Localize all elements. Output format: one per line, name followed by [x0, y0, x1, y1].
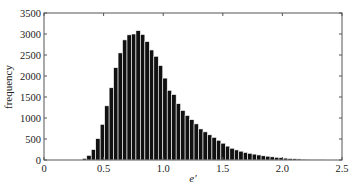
histogram-bar — [252, 154, 256, 160]
histogram-bar — [91, 150, 95, 161]
histogram-bar — [131, 34, 135, 160]
histogram-bar — [167, 90, 171, 160]
y-tick-label: 0 — [36, 155, 41, 166]
histogram-bar — [230, 148, 234, 160]
histogram-bar — [123, 40, 127, 160]
histogram-bar — [261, 156, 265, 160]
histogram-bar — [185, 115, 189, 160]
histogram-bar — [154, 56, 158, 160]
y-tick-label: 500 — [25, 134, 41, 145]
histogram-bar — [181, 110, 185, 160]
histogram-bar — [114, 68, 118, 160]
y-axis-label: frequency — [2, 65, 14, 109]
x-tick-label: 1.0 — [157, 163, 170, 174]
y-tick-label: 2000 — [20, 71, 41, 82]
y-tick-label: 1000 — [20, 113, 41, 124]
histogram-bar — [118, 53, 122, 160]
x-tick-label: 0.5 — [97, 163, 110, 174]
histogram-bar — [145, 42, 149, 160]
histogram-bar — [207, 135, 211, 160]
histogram-bar — [158, 66, 162, 161]
y-tick-label: 1500 — [20, 92, 41, 103]
histogram-bar — [105, 106, 109, 160]
histogram-bar — [234, 150, 238, 160]
x-tick-label: 2.0 — [276, 163, 289, 174]
histogram-bar — [176, 104, 180, 160]
y-tick-label: 3000 — [20, 29, 41, 40]
histogram-bar — [100, 124, 104, 160]
x-axis-label: e′ — [189, 172, 197, 184]
histogram-bar — [140, 34, 144, 160]
histogram-chart: 00.51.01.52.02.5 05001000150020002500300… — [0, 0, 357, 187]
histogram-bar — [266, 156, 270, 160]
histogram-bar — [163, 78, 167, 160]
x-tick-label: 1.5 — [216, 163, 229, 174]
histogram-bar — [203, 132, 207, 160]
histogram-bar — [239, 151, 243, 160]
histogram-bar — [190, 120, 194, 160]
histogram-bar — [136, 31, 140, 160]
histogram-bar — [216, 140, 220, 160]
x-tick-label: 0 — [41, 163, 46, 174]
histogram-bar — [87, 155, 91, 160]
histogram-bar — [109, 88, 113, 160]
histogram-bar — [127, 35, 131, 160]
histogram-bars — [82, 31, 323, 160]
histogram-bar — [257, 155, 261, 160]
histogram-bar — [199, 129, 203, 160]
histogram-bar — [225, 146, 229, 160]
histogram-bar — [194, 124, 198, 160]
histogram-bar — [149, 50, 153, 160]
y-tick-label: 3500 — [20, 8, 41, 19]
histogram-bar — [212, 137, 216, 160]
histogram-bar — [243, 152, 247, 160]
histogram-bar — [172, 94, 176, 160]
x-tick-label: 2.5 — [335, 163, 348, 174]
histogram-bar — [96, 139, 100, 160]
y-tick-label: 2500 — [20, 50, 41, 61]
histogram-bar — [248, 153, 252, 160]
